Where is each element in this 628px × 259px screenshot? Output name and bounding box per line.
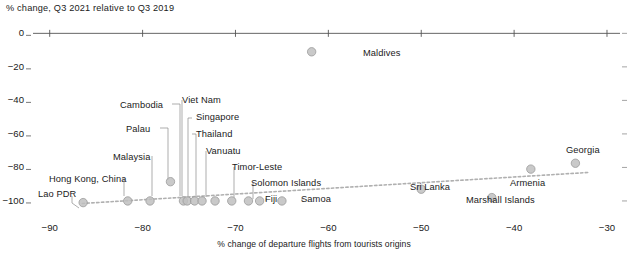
point-label: Solomon Islands	[251, 178, 321, 188]
point-label: Cambodia	[120, 100, 163, 110]
x-tick-label: −30	[587, 222, 627, 233]
data-point-marker	[571, 159, 579, 167]
point-label: Samoa	[301, 194, 331, 204]
point-label: Vanuatu	[206, 146, 241, 156]
data-point-marker	[198, 197, 206, 205]
data-point-marker	[307, 48, 315, 56]
x-tick-label: −50	[401, 222, 441, 233]
data-point-marker	[79, 198, 87, 206]
y-tick-label: −80	[0, 161, 24, 172]
y-tick-label: −20	[0, 61, 24, 72]
x-axis-title: % change of departure flights from touri…	[0, 239, 628, 249]
data-point-marker	[244, 197, 252, 205]
x-tick-label: −80	[123, 222, 163, 233]
point-label: Armenia	[510, 178, 545, 188]
y-tick-label: −60	[0, 128, 24, 139]
point-label: Palau	[126, 124, 150, 134]
data-point-marker	[527, 165, 535, 173]
chart-figure: % change, Q3 2021 relative to Q3 2019 0−…	[0, 0, 628, 259]
y-tick-label: −100	[0, 195, 24, 206]
point-label: Singapore	[196, 112, 239, 122]
label-leader-lines	[72, 100, 302, 208]
x-tick-label: −90	[30, 222, 70, 233]
x-tick-label: −70	[215, 222, 255, 233]
data-point-marker	[228, 197, 236, 205]
data-point-marker	[278, 197, 286, 205]
data-point-marker	[166, 177, 174, 185]
data-point-marker	[124, 197, 132, 205]
data-point-marker	[146, 197, 154, 205]
point-label: Thailand	[196, 129, 232, 139]
y-tick-label: −40	[0, 94, 24, 105]
point-label: Hong Kong, China	[49, 174, 126, 184]
data-point-marker	[211, 197, 219, 205]
point-label: Georgia	[566, 145, 600, 155]
y-tick-label: 0	[0, 27, 24, 38]
point-label: Maldives	[363, 48, 400, 58]
point-label: Marshall Islands	[466, 195, 535, 205]
x-tick-label: −60	[308, 222, 348, 233]
point-label: Malaysia	[113, 152, 150, 162]
x-tick-label: −40	[494, 222, 534, 233]
point-label: Lao PDR	[38, 189, 76, 199]
point-label: Timor-Leste	[232, 162, 282, 172]
point-label: Sri Lanka	[410, 182, 450, 192]
data-markers	[79, 48, 580, 207]
scatter-plot-canvas	[0, 0, 628, 259]
point-label: Viet Nam	[182, 95, 221, 105]
data-point-marker	[255, 197, 263, 205]
point-label: Fiji	[265, 194, 277, 204]
